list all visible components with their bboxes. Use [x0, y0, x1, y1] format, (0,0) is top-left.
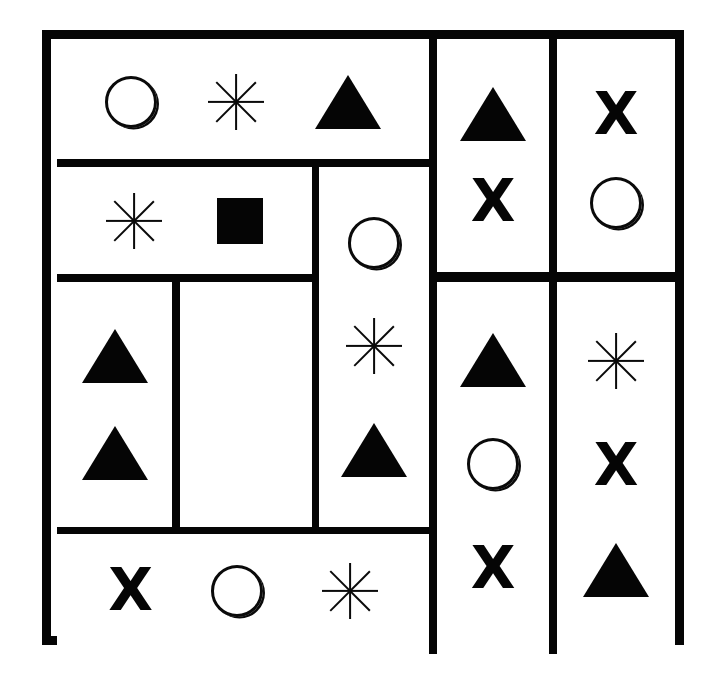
cell-empty-middle	[180, 282, 312, 527]
circle-outline-symbol	[105, 76, 157, 128]
grid-divider-vertical	[172, 282, 180, 527]
grid-divider-vertical	[549, 39, 557, 654]
filled-triangle-symbol	[82, 329, 148, 383]
bold-x-symbol: X	[108, 563, 153, 618]
circle-outline-symbol	[348, 217, 400, 269]
bold-x-symbol: X	[594, 438, 639, 493]
grid-divider-vertical	[312, 167, 319, 527]
filled-square-symbol	[217, 198, 263, 244]
symbol-grid-frame: XXXXX	[42, 30, 684, 645]
eight-ray-asterisk-symbol	[346, 318, 402, 374]
eight-ray-asterisk-symbol	[322, 563, 378, 619]
filled-triangle-symbol	[341, 423, 407, 477]
bold-x-symbol: X	[471, 174, 516, 229]
eight-ray-asterisk-symbol	[106, 193, 162, 249]
filled-triangle-symbol	[315, 75, 381, 129]
filled-triangle-symbol	[82, 426, 148, 480]
circle-outline-symbol	[590, 177, 642, 229]
filled-triangle-symbol	[583, 543, 649, 597]
cell-top-wide	[57, 44, 429, 159]
filled-triangle-symbol	[460, 87, 526, 141]
cell-right-b-bottom: X	[557, 282, 675, 648]
bold-x-symbol: X	[471, 541, 516, 596]
cell-middle-tall	[319, 167, 429, 527]
filled-triangle-symbol	[460, 333, 526, 387]
cell-right-a-top: X	[437, 44, 549, 272]
cell-right-b-top: X	[557, 44, 675, 272]
grid-divider-horizontal	[57, 274, 312, 282]
cell-second-left	[57, 167, 312, 274]
cell-bottom-wide: X	[57, 534, 429, 648]
bold-x-symbol: X	[594, 87, 639, 142]
grid-divider-horizontal	[57, 159, 429, 167]
circle-outline-symbol	[211, 565, 263, 617]
eight-ray-asterisk-symbol	[208, 74, 264, 130]
cell-left-narrow	[57, 282, 172, 527]
eight-ray-asterisk-symbol	[588, 333, 644, 389]
circle-outline-symbol	[467, 438, 519, 490]
cell-right-a-bottom: X	[437, 282, 549, 648]
figure-canvas: XXXXX	[0, 0, 714, 673]
grid-divider-vertical	[429, 39, 437, 654]
